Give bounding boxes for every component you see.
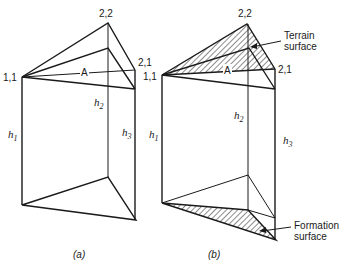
caption-a: (a): [73, 249, 85, 260]
label-area-b: A: [224, 65, 231, 76]
label-2-1-b: 2,1: [278, 64, 292, 75]
terrain-hatch: [162, 24, 275, 75]
lower-plane-edge-a: [22, 77, 135, 89]
terrain-label-line1: Terrain: [284, 30, 315, 41]
label-2-2-b: 2,2: [238, 8, 252, 19]
label-2-1-a: 2,1: [138, 57, 152, 68]
label-h2-a: h2: [94, 96, 104, 111]
terrain-outline-a: [22, 23, 135, 77]
panel-a: 2,2 2,1 1,1 A h1 h2 h3 (a): [3, 8, 152, 260]
base-triangle-a: [22, 177, 136, 220]
caption-b: (b): [208, 249, 220, 260]
label-h2-b: h2: [234, 109, 244, 124]
prismoid-diagram: 2,2 2,1 1,1 A h1 h2 h3 (a) 2,2 2,1 1,1 A: [0, 0, 346, 268]
label-h3-a: h3: [122, 126, 132, 141]
terrain-label-line2: surface: [284, 41, 317, 52]
label-1-1-b: 1,1: [143, 71, 157, 82]
panel-b: 2,2 2,1 1,1 A h1 h2 h3 Terrain surface F…: [143, 8, 339, 260]
formation-label-line2: surface: [294, 231, 327, 242]
label-h1-a: h1: [8, 128, 18, 143]
formation-label-line1: Formation: [294, 220, 339, 231]
label-1-1-a: 1,1: [3, 72, 17, 83]
lower-plane-edge-b: [162, 75, 275, 89]
label-h3-b: h3: [283, 134, 293, 149]
label-2-2-a: 2,2: [99, 8, 113, 19]
label-h1-b: h1: [149, 128, 159, 143]
label-area-a: A: [81, 67, 88, 78]
